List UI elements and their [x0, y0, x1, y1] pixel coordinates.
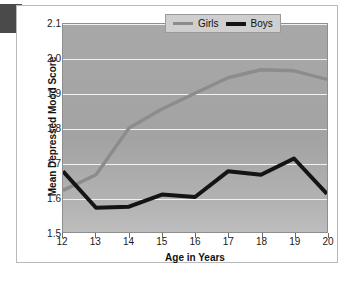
series-lines — [63, 24, 327, 232]
legend-item-boys[interactable]: Boys — [226, 18, 273, 29]
line-series-girls — [63, 70, 327, 191]
y-axis-tick-label: 2.0 — [47, 53, 61, 64]
y-axis-tick-label: 1.9 — [47, 88, 61, 99]
legend-swatch-icon — [226, 22, 246, 26]
x-axis-tick-label: 16 — [189, 236, 200, 247]
legend-item-girls[interactable]: Girls — [173, 18, 219, 29]
x-axis-tick-label: 12 — [56, 236, 67, 247]
plot-area — [62, 23, 328, 233]
x-axis-tick-label: 13 — [90, 236, 101, 247]
y-axis-tick-labels: 1.51.61.71.81.92.02.1 — [37, 16, 61, 240]
y-axis-tick-label: 1.8 — [47, 123, 61, 134]
chart-legend: GirlsBoys — [165, 14, 281, 33]
legend-swatch-icon — [173, 22, 193, 25]
y-axis-tick-label: 2.1 — [47, 18, 61, 29]
x-axis-tick-label: 15 — [156, 236, 167, 247]
figure-root: Mean Depressed Mood Score 1.51.61.71.81.… — [0, 0, 344, 281]
legend-label: Boys — [251, 18, 273, 29]
y-axis-tick-label: 1.7 — [47, 158, 61, 169]
x-axis-tick-labels: 121314151617181920 — [62, 236, 328, 252]
x-axis-tick-label: 14 — [123, 236, 134, 247]
page-margin-text-bleed — [0, 48, 16, 208]
x-axis-tick-label: 19 — [289, 236, 300, 247]
x-axis-tick-label: 18 — [256, 236, 267, 247]
y-axis-tick-label: 1.6 — [47, 193, 61, 204]
x-axis-title: Age in Years — [62, 252, 328, 263]
x-axis-tick-label: 20 — [322, 236, 333, 247]
x-axis-tick-label: 17 — [223, 236, 234, 247]
legend-label: Girls — [198, 18, 219, 29]
chart-card: Mean Depressed Mood Score 1.51.61.71.81.… — [16, 5, 338, 263]
